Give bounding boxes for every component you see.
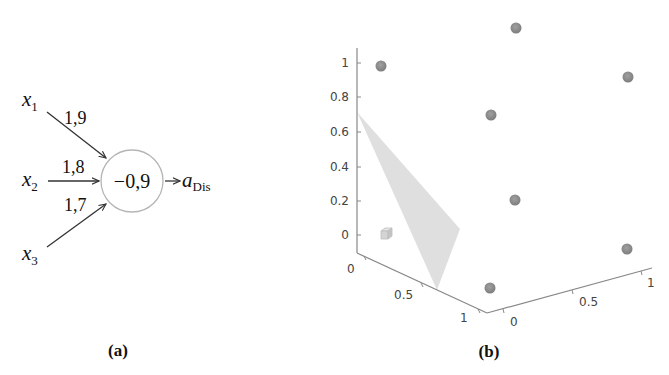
input-x2-label: x2: [21, 167, 38, 194]
point-1-1-0: [622, 244, 633, 255]
point-1-0-0: [510, 195, 521, 206]
neuron-bias-label: −0,9: [114, 170, 150, 192]
y-tick-marks: [503, 271, 642, 313]
svg-text:0.2: 0.2: [330, 194, 349, 208]
output-a-dis-label: aDis: [182, 168, 211, 194]
x-tick-labels: 0 0.5 1: [347, 262, 468, 325]
weight-label-3: 1,7: [64, 195, 87, 215]
caption-b: (b): [479, 342, 500, 361]
svg-text:0.4: 0.4: [330, 160, 349, 174]
weight-label-2: 1,8: [62, 157, 85, 177]
svg-text:1: 1: [647, 276, 655, 290]
svg-text:0: 0: [341, 228, 349, 242]
svg-text:0: 0: [347, 262, 355, 276]
weight-label-1: 1,9: [64, 108, 87, 128]
separating-plane: [357, 112, 460, 290]
caption-a: (a): [108, 341, 128, 360]
point-1-0-1: [511, 23, 522, 34]
y-axis: [487, 268, 652, 313]
cube-marker-origin: [381, 228, 392, 239]
y-tick-labels: 0 0.5 1: [510, 276, 655, 329]
svg-text:0.8: 0.8: [330, 90, 349, 104]
point-0-1-1: [486, 110, 497, 121]
data-points-class-1: [376, 23, 634, 294]
figure: x1 x2 x3 1,9 1,8 1,7 −0,9 aDis (a): [0, 0, 669, 375]
svg-text:1: 1: [460, 311, 468, 325]
svg-text:1: 1: [341, 56, 349, 70]
panel-a-neuron-diagram: x1 x2 x3 1,9 1,8 1,7 −0,9 aDis (a): [21, 87, 211, 360]
svg-text:0: 0: [510, 315, 518, 329]
svg-text:0.5: 0.5: [579, 295, 598, 309]
panel-b-3d-plot: 0 0.2 0.4 0.6 0.8 1 0 0.5 1 0 0.5 1: [330, 23, 655, 362]
z-tick-labels: 0 0.2 0.4 0.6 0.8 1: [330, 56, 349, 242]
point-1-1-1: [623, 72, 634, 83]
input-x3-label: x3: [21, 241, 38, 268]
point-0-0-1: [376, 61, 387, 72]
input-x1-label: x1: [21, 87, 38, 114]
svg-text:0.5: 0.5: [394, 288, 413, 302]
svg-text:0.6: 0.6: [330, 125, 349, 139]
point-0-1-0: [485, 283, 496, 294]
x-axis: [357, 253, 487, 313]
